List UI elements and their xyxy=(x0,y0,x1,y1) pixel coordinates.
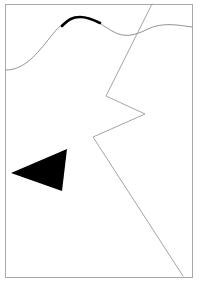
drawing-surface xyxy=(0,0,200,284)
canvas-background xyxy=(0,0,200,284)
figure-canvas xyxy=(0,0,200,284)
